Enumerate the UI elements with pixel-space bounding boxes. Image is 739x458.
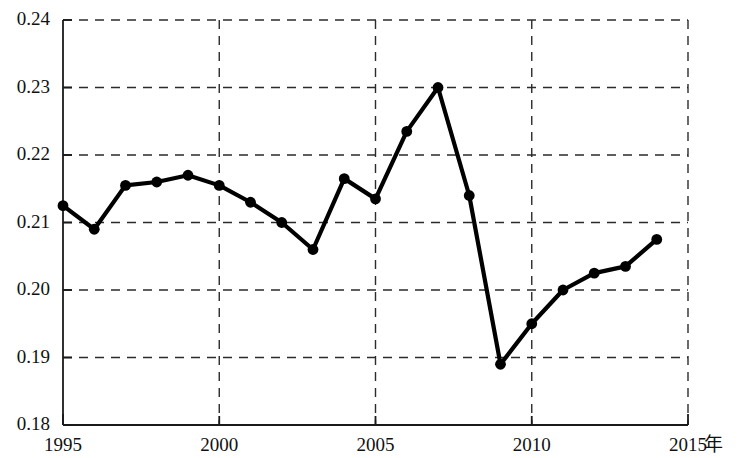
y-tick-label: 0.22 xyxy=(17,143,50,164)
data-point xyxy=(151,177,162,188)
data-point xyxy=(589,268,600,279)
y-tick-label: 0.18 xyxy=(17,413,50,434)
y-tick-label: 0.19 xyxy=(17,346,50,367)
y-tick-label: 0.24 xyxy=(17,8,51,29)
data-point xyxy=(558,285,569,296)
data-point xyxy=(370,193,381,204)
x-axis-unit-label: 年 xyxy=(704,434,723,455)
y-tick-label: 0.23 xyxy=(17,76,50,97)
data-point xyxy=(620,261,631,272)
y-tick-label: 0.20 xyxy=(17,278,50,299)
data-point xyxy=(58,200,69,211)
data-point xyxy=(464,190,475,201)
x-tick-label: 2000 xyxy=(200,434,238,455)
x-tick-label: 2015 xyxy=(669,434,707,455)
data-point xyxy=(339,173,350,184)
data-point xyxy=(401,126,412,137)
data-point xyxy=(89,224,100,235)
data-point xyxy=(120,180,131,191)
line-chart: 0.180.190.200.210.220.230.24199520002005… xyxy=(0,0,739,458)
data-point xyxy=(308,244,319,255)
x-tick-label: 2010 xyxy=(513,434,551,455)
data-point xyxy=(495,359,506,370)
x-tick-label: 1995 xyxy=(44,434,82,455)
data-point xyxy=(526,318,537,329)
y-tick-label: 0.21 xyxy=(17,211,50,232)
x-tick-label: 2005 xyxy=(357,434,395,455)
data-point xyxy=(276,217,287,228)
data-point xyxy=(245,197,256,208)
data-point xyxy=(183,170,194,181)
data-point xyxy=(651,234,662,245)
chart-page: 0.180.190.200.210.220.230.24199520002005… xyxy=(0,0,739,458)
data-point xyxy=(214,180,225,191)
data-point xyxy=(433,82,444,93)
series-line xyxy=(63,88,657,365)
